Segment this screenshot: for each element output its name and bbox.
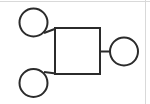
node-square-center[interactable] [55,28,100,74]
node-circle-right[interactable] [110,38,138,66]
pedigree-diagram [0,0,150,104]
node-circle-bottom-left[interactable] [20,69,48,97]
diagram-canvas [0,0,150,104]
node-circle-top-left[interactable] [20,9,48,37]
